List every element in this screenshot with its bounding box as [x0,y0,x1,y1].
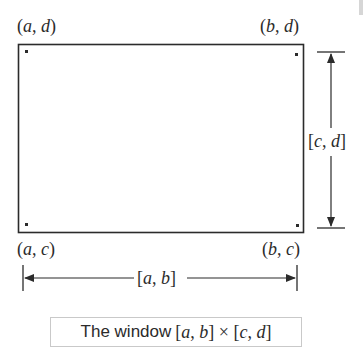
corner-dot-bottom-right [296,224,299,227]
separator: , [32,239,41,259]
window-rectangle [19,45,304,233]
interval-lo: a [181,322,190,342]
bracket-close: ] [265,322,271,342]
separator: , [277,239,286,259]
label-top-right-corner: (b, d) [260,17,299,35]
coord-x: b [268,239,277,259]
separator: , [275,16,284,36]
coord-y: c [286,239,294,259]
coord-y: d [284,16,293,36]
separator: , [32,16,41,36]
corner-dot-top-right [295,53,298,56]
label-horizontal-interval: [a, b] [137,269,176,287]
window-diagram [0,0,363,350]
interval-hi: b [199,322,208,342]
interval-lo: a [143,268,152,288]
caption-math: [a, b] × [c, d] [175,322,271,343]
paren-close: ) [49,239,55,259]
coord-y: d [41,16,50,36]
times-symbol: × [214,322,233,342]
interval-lo: c [314,131,322,151]
separator: , [152,268,161,288]
label-bottom-right-corner: (b, c) [262,240,300,258]
separator: , [190,322,199,342]
paren-close: ) [293,16,299,36]
label-vertical-interval: [c, d] [308,132,346,150]
label-top-left-corner: (a, d) [17,17,56,35]
coord-y: c [41,239,49,259]
interval-hi: d [331,131,340,151]
paren-close: ) [50,16,56,36]
separator: , [322,131,331,151]
bracket-close: ] [340,131,346,151]
label-bottom-left-corner: (a, c) [17,240,55,258]
bracket-close: ] [170,268,176,288]
coord-x: a [23,16,32,36]
caption-prefix: The window [81,322,172,342]
paren-close: ) [294,239,300,259]
coord-x: b [266,16,275,36]
coord-x: a [23,239,32,259]
interval-hi: b [161,268,170,288]
corner-dot-top-left [25,50,28,53]
corner-dot-bottom-left [25,223,28,226]
caption-box: The window [a, b] × [c, d] [50,317,302,347]
